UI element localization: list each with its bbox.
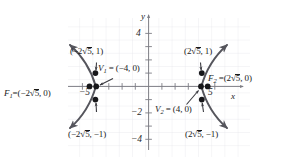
leader-left-upper (96, 63, 97, 71)
label-lower-right-point: (2√5, −1) (185, 130, 218, 139)
x-axis-label: x (231, 92, 235, 101)
label-upper-left-point: (−2√5, 1) (70, 47, 103, 56)
label-vertex-left: V1 = (−4, 0) (98, 64, 140, 74)
y-tick-label-neg2: −2 (131, 108, 142, 118)
point-right-lower (199, 97, 205, 103)
label-vertex-right: V2 = (4, 0) (155, 105, 192, 115)
point-right-upper (199, 70, 205, 76)
point-vertex-right (198, 84, 204, 90)
label-upper-right-point: (2√5, 1) (184, 47, 212, 56)
point-left-lower (93, 97, 99, 103)
label-focus-right: F2 =(2√5, 0) (208, 74, 252, 84)
label-lower-left-point: (−2√5, −1) (68, 130, 106, 139)
leader-right-upper (201, 63, 202, 71)
point-vertex-left (93, 84, 99, 90)
label-focus-left: F1=(−2√5, 0) (4, 89, 51, 99)
y-axis-label: y (141, 12, 145, 21)
leader-left-lower (96, 103, 97, 112)
y-tick-label-4: 4 (136, 29, 141, 39)
x-tick-label-5: 5 (208, 88, 213, 98)
hyperbola-figure (0, 0, 285, 168)
x-tick-label-neg5: −5 (79, 88, 90, 98)
y-tick-label-neg4: −4 (131, 135, 142, 145)
